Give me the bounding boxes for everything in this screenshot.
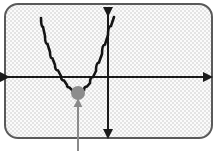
vertex-dot xyxy=(71,86,85,100)
figure-canvas xyxy=(0,0,219,151)
parabola-vertex-diagram xyxy=(0,0,219,151)
